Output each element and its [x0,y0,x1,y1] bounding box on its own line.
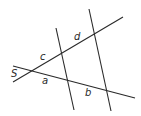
label-b: b [85,87,91,98]
label-a: a [42,75,48,86]
geometry-diagram: S c d a b [0,0,141,116]
lower-transversal-line [13,66,135,98]
label-s: S [11,68,18,79]
label-c: c [40,51,46,62]
upper-transversal-line [13,17,123,82]
right-line [89,9,111,111]
label-d: d [74,31,81,42]
left-line [56,28,74,110]
